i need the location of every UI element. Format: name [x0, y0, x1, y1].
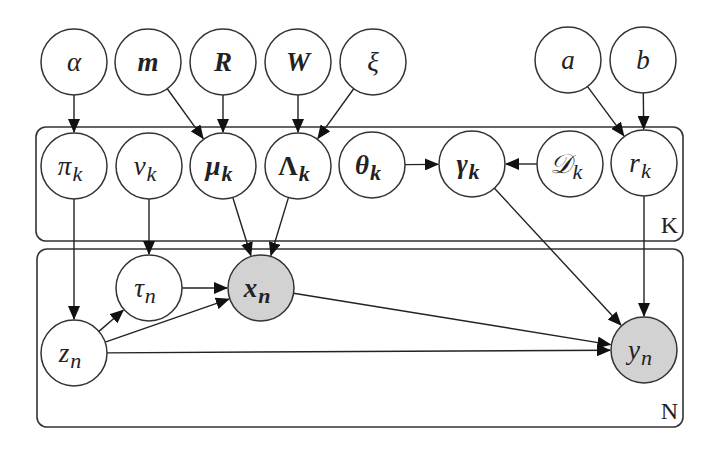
node-symbol: W [286, 47, 312, 77]
node-symbol: m [137, 47, 158, 77]
node-b: b [610, 27, 676, 93]
node-pi_k: πk [41, 133, 107, 199]
edge-z_n-to-tau_n [99, 310, 123, 331]
edge-m-to-mu_k [167, 89, 203, 139]
node-subscript: n [258, 283, 270, 308]
node-symbol: ν [134, 151, 146, 181]
plate-label: K [661, 212, 679, 238]
node-label: α [67, 47, 82, 77]
node-subscript: n [641, 345, 652, 370]
node-subscript: k [299, 161, 310, 186]
edge-mu_k-to-x_n [233, 198, 251, 256]
graphical-model-diagram: KN αmRWξabπkνkμkΛkθkγk𝒟krkτnxnznyn [0, 0, 717, 454]
plate-label: N [661, 398, 678, 424]
node-label: ξ [367, 47, 379, 77]
node-subscript: n [145, 283, 156, 308]
node-R: R [190, 29, 256, 95]
edge-Lambda_k-to-x_n [271, 198, 289, 256]
node-symbol: γ [456, 149, 468, 179]
edge-gamma_k-to-y_n [494, 188, 621, 325]
node-label: W [286, 47, 312, 77]
node-Lambda_k: Λk [265, 133, 331, 199]
node-subscript: n [70, 348, 81, 373]
node-D_k: 𝒟k [537, 131, 603, 197]
node-subscript: k [147, 161, 158, 186]
edge-z_n-to-y_n [107, 350, 610, 353]
edge-a-to-r_k [588, 87, 624, 136]
node-subscript: k [469, 159, 480, 184]
node-r_k: rk [611, 130, 677, 196]
node-subscript: k [222, 161, 233, 186]
node-label: a [561, 45, 575, 75]
node-symbol: b [636, 45, 650, 75]
edge-xi-to-Lambda_k [318, 89, 354, 139]
node-mu_k: μk [190, 133, 256, 199]
node-symbol: z [58, 338, 70, 368]
node-symbol: Λ [278, 151, 298, 181]
node-label: b [636, 45, 650, 75]
node-symbol: μ [203, 151, 220, 181]
node-nu_k: νk [116, 133, 182, 199]
node-x_n: xn [228, 255, 294, 321]
node-symbol: α [67, 47, 82, 77]
node-symbol: y [625, 335, 640, 365]
node-symbol: τ [134, 273, 145, 303]
node-W: W [265, 29, 331, 95]
node-m: m [115, 29, 181, 95]
node-symbol: ξ [367, 47, 379, 77]
node-subscript: k [370, 160, 381, 185]
edge-x_n-to-y_n [294, 293, 611, 344]
node-label: R [213, 47, 232, 77]
node-theta_k: θk [339, 132, 405, 198]
node-alpha: α [41, 29, 107, 95]
node-xi: ξ [340, 29, 406, 95]
node-z_n: zn [41, 320, 107, 386]
nodes: αmRWξabπkνkμkΛkθkγk𝒟krkτnxnznyn [41, 27, 677, 386]
node-symbol: π [58, 151, 73, 181]
node-symbol: r [629, 148, 640, 178]
node-symbol: x [243, 273, 258, 303]
node-subscript: k [72, 161, 83, 186]
node-gamma_k: γk [439, 131, 505, 197]
node-tau_n: τn [116, 255, 182, 321]
node-a: a [535, 27, 601, 93]
node-symbol: a [561, 45, 575, 75]
node-symbol: R [213, 47, 232, 77]
node-label: m [137, 47, 158, 77]
node-subscript: k [573, 159, 584, 184]
node-symbol: θ [355, 150, 369, 180]
node-y_n: yn [611, 317, 677, 383]
node-subscript: k [641, 158, 652, 183]
